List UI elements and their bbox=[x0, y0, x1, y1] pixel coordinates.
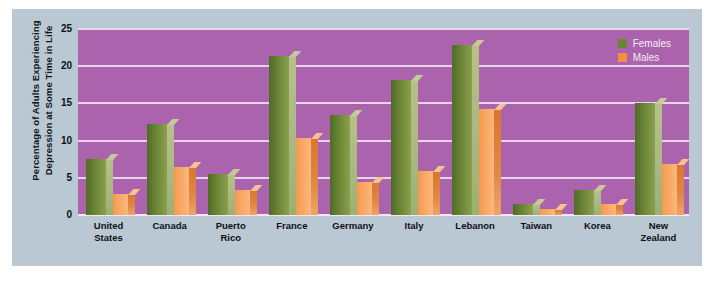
bar-top bbox=[494, 104, 506, 110]
bar-group bbox=[506, 29, 567, 215]
bar-side bbox=[228, 174, 235, 215]
bar-face bbox=[208, 174, 228, 215]
bar-side bbox=[472, 45, 479, 215]
bar-side bbox=[533, 204, 540, 215]
bar-top bbox=[167, 119, 179, 125]
x-tick-label: Taiwan bbox=[506, 220, 567, 232]
bar-side bbox=[167, 124, 174, 215]
chart-figure: Percentage of Adults Experiencing Depres… bbox=[0, 0, 717, 284]
legend-item: Males bbox=[618, 52, 671, 63]
bar-females bbox=[513, 204, 533, 215]
bar-females bbox=[391, 80, 411, 215]
y-tick-label: 15 bbox=[40, 97, 72, 108]
bar-top bbox=[189, 162, 201, 168]
bar-face bbox=[330, 115, 350, 215]
bar-group bbox=[384, 29, 445, 215]
bar-face bbox=[86, 159, 106, 215]
bar-top bbox=[128, 189, 140, 195]
bar-females bbox=[269, 56, 289, 215]
bar-females bbox=[452, 45, 472, 215]
bar-side bbox=[616, 204, 623, 215]
y-tick-label: 10 bbox=[40, 135, 72, 146]
bar-top bbox=[106, 154, 118, 160]
bar-side bbox=[106, 159, 113, 215]
bar-side bbox=[289, 56, 296, 215]
legend-item: Females bbox=[618, 38, 671, 49]
x-tick-label: Germany bbox=[322, 220, 383, 232]
bar-top bbox=[228, 169, 240, 175]
bar-face bbox=[391, 80, 411, 215]
y-tick-label: 0 bbox=[40, 209, 72, 220]
legend-swatch-males bbox=[618, 53, 627, 62]
bar-top bbox=[677, 159, 689, 165]
bar-group bbox=[322, 29, 383, 215]
bar-side bbox=[372, 182, 379, 215]
bar-face bbox=[269, 56, 289, 215]
bar-face bbox=[635, 103, 655, 215]
legend: Females Males bbox=[613, 35, 677, 69]
bar-top bbox=[372, 177, 384, 183]
bar-side bbox=[250, 190, 257, 215]
x-tick-label: UnitedStates bbox=[78, 220, 139, 243]
legend-swatch-females bbox=[618, 39, 627, 48]
x-tick-label: PuertoRico bbox=[200, 220, 261, 243]
x-tick-label: Korea bbox=[567, 220, 628, 232]
bar-females bbox=[635, 103, 655, 215]
bar-top bbox=[411, 75, 423, 81]
bar-side bbox=[433, 171, 440, 215]
bar-top bbox=[433, 166, 445, 172]
bar-side bbox=[411, 80, 418, 215]
x-tick-label: Canada bbox=[139, 220, 200, 232]
bar-group bbox=[445, 29, 506, 215]
bar-side bbox=[311, 138, 318, 215]
bar-face bbox=[147, 124, 167, 215]
bar-females bbox=[86, 159, 106, 215]
bar-side bbox=[350, 115, 357, 215]
bar-top bbox=[655, 98, 667, 104]
bar-side bbox=[189, 167, 196, 215]
bar-top bbox=[311, 133, 323, 139]
bar-top bbox=[289, 51, 301, 57]
bar-females bbox=[147, 124, 167, 215]
bar-side bbox=[677, 164, 684, 215]
bar-females bbox=[574, 190, 594, 215]
bar-females bbox=[208, 174, 228, 215]
bar-face bbox=[513, 204, 533, 215]
bar-top bbox=[616, 199, 628, 205]
bar-top bbox=[350, 110, 362, 116]
bar-group bbox=[200, 29, 261, 215]
bar-face bbox=[574, 190, 594, 215]
bar-side bbox=[128, 194, 135, 215]
x-tick-label: France bbox=[261, 220, 322, 232]
bar-face bbox=[452, 45, 472, 215]
bar-top bbox=[250, 185, 262, 191]
bar-top bbox=[555, 204, 567, 210]
bar-top bbox=[472, 40, 484, 46]
y-tick-label: 25 bbox=[40, 23, 72, 34]
bar-top bbox=[533, 199, 545, 205]
bar-females bbox=[330, 115, 350, 215]
plot-area: Females Males bbox=[78, 29, 689, 215]
bar-top bbox=[594, 185, 606, 191]
bar-group bbox=[78, 29, 139, 215]
legend-label-females: Females bbox=[633, 38, 671, 49]
y-tick-label: 20 bbox=[40, 60, 72, 71]
bar-side bbox=[494, 109, 501, 215]
y-tick-label: 5 bbox=[40, 172, 72, 183]
bar-group bbox=[261, 29, 322, 215]
bar-group bbox=[139, 29, 200, 215]
x-tick-label: Italy bbox=[384, 220, 445, 232]
bar-side bbox=[594, 190, 601, 215]
x-tick-label: NewZealand bbox=[628, 220, 689, 243]
x-tick-label: Lebanon bbox=[445, 220, 506, 232]
bar-side bbox=[655, 103, 662, 215]
legend-label-males: Males bbox=[633, 52, 660, 63]
